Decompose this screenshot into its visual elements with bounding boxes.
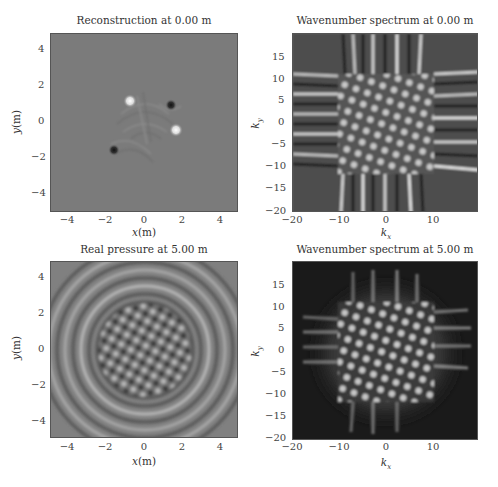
panel2-xtick: −10 <box>328 214 349 225</box>
panel1-ytick: 0 <box>38 115 44 126</box>
panel1-xlabel: x(m) <box>132 226 156 238</box>
panel2-ytick: 10 <box>272 73 285 84</box>
panel3-plot <box>50 261 238 438</box>
panel3-ytick: 0 <box>38 343 44 354</box>
spectrum-image-0m <box>293 34 478 212</box>
panel2-plot <box>292 33 478 212</box>
panel2-ytick: 15 <box>272 51 285 62</box>
panel1-xtick: −4 <box>60 214 75 225</box>
panel3-title: Real pressure at 5.00 m <box>50 243 238 255</box>
panel4-ytick: −15 <box>265 410 286 421</box>
panel1-ytick: −2 <box>31 151 46 162</box>
panel1-ytick: 4 <box>38 43 44 54</box>
panel4-ytick: −10 <box>265 388 286 399</box>
panel1-xtick: −2 <box>98 214 113 225</box>
spectrum-image-5m <box>293 262 478 440</box>
pressure-field-image <box>51 262 238 438</box>
panel2-ytick: −10 <box>265 160 286 171</box>
panel2-xtick: 0 <box>383 214 389 225</box>
panel2-ytick: 5 <box>278 94 284 105</box>
panel3-ytick: −4 <box>31 415 46 426</box>
reconstruction-image <box>51 34 238 212</box>
panel1-xtick: 4 <box>217 214 223 225</box>
panel4-title: Wavenumber spectrum at 5.00 m <box>292 243 478 255</box>
panel1-title: Reconstruction at 0.00 m <box>50 14 238 26</box>
panel4-ytick: 15 <box>272 279 285 290</box>
panel4-ytick: 5 <box>278 322 284 333</box>
panel3-ylabel: y(m) <box>10 336 22 360</box>
panel2-ytick: 0 <box>278 116 284 127</box>
panel4-ytick: 0 <box>278 344 284 355</box>
panel4-plot <box>292 261 478 440</box>
panel4-xtick: 0 <box>383 441 389 452</box>
panel4-xtick: 10 <box>427 441 440 452</box>
panel4-ylabel: ky <box>249 346 264 356</box>
panel1-plot <box>50 33 238 212</box>
panel3-ytick: −2 <box>31 379 46 390</box>
panel4-xtick: −20 <box>281 441 302 452</box>
panel3-ytick: 2 <box>38 307 44 318</box>
panel2-ytick: −15 <box>265 182 286 193</box>
panel2-xlabel: kx <box>381 226 391 241</box>
panel3-xtick: −4 <box>60 441 75 452</box>
panel4-xlabel: kx <box>381 456 391 471</box>
panel1-ytick: 2 <box>38 79 44 90</box>
panel3-xtick: 0 <box>141 441 147 452</box>
panel1-xtick: 2 <box>179 214 185 225</box>
panel2-ylabel: ky <box>249 118 264 128</box>
panel4-ytick: −5 <box>271 366 286 377</box>
panel3-xtick: 2 <box>179 441 185 452</box>
panel3-xtick: 4 <box>217 441 223 452</box>
panel1-ylabel: y(m) <box>10 110 22 134</box>
panel1-ytick: −4 <box>31 187 46 198</box>
panel1-xtick: 0 <box>141 214 147 225</box>
panel4-xtick: −10 <box>328 441 349 452</box>
panel3-ytick: 4 <box>38 271 44 282</box>
panel2-xtick: 10 <box>427 214 440 225</box>
panel4-ytick: 10 <box>272 301 285 312</box>
panel2-title: Wavenumber spectrum at 0.00 m <box>292 14 478 26</box>
panel2-xtick: −20 <box>281 214 302 225</box>
panel3-xtick: −2 <box>98 441 113 452</box>
panel2-ytick: −5 <box>271 138 286 149</box>
panel3-xlabel: x(m) <box>132 455 156 467</box>
